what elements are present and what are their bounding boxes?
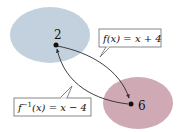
element-label-6: 6	[138, 99, 146, 113]
inverse-label-superscript: −1	[22, 101, 32, 109]
function-diagram: 2 6 f(x) = x + 4 f−1(x) = x − 4	[0, 0, 188, 132]
inverse-callout: f−1(x) = x − 4	[14, 86, 91, 116]
point-6	[129, 102, 134, 107]
inverse-label-rest: (x) = x − 4	[32, 102, 87, 113]
forward-callout: f(x) = x + 4	[99, 29, 162, 57]
point-2	[54, 43, 59, 48]
element-label-2: 2	[54, 28, 62, 42]
forward-function-label: f(x) = x + 4	[102, 33, 162, 44]
domain-set-ellipse	[10, 7, 90, 63]
